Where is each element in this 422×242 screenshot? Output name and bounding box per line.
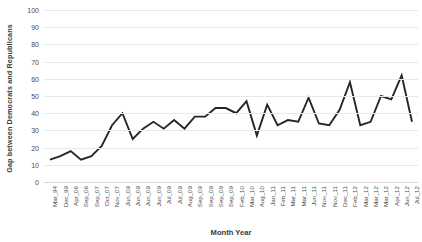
gridline-0 bbox=[44, 182, 418, 183]
x-tick-label: Sep_06 bbox=[83, 186, 89, 207]
y-tick-100: 100 bbox=[27, 7, 39, 14]
x-tick-label: Mar_12 bbox=[363, 186, 369, 207]
x-tick-label: Jul_09 bbox=[166, 186, 172, 204]
x-tick-label: Sep_09 bbox=[218, 186, 224, 207]
x-tick-label: Aug_09 bbox=[187, 186, 193, 207]
y-tick-60: 60 bbox=[31, 75, 39, 82]
gridline-30 bbox=[44, 130, 418, 131]
y-axis-title-text: Gap between Democrats and Republicans bbox=[5, 24, 14, 173]
x-tick-label: Jun_11 bbox=[311, 186, 317, 206]
y-tick-90: 90 bbox=[31, 24, 39, 31]
y-axis-tick-labels: 0102030405060708090100 bbox=[16, 0, 42, 196]
gridline-90 bbox=[44, 27, 418, 28]
x-tick-label: Jul_12 bbox=[414, 186, 420, 204]
y-tick-10: 10 bbox=[31, 161, 39, 168]
x-tick-label: Apr_12 bbox=[394, 186, 400, 206]
x-tick-label: Mar_11 bbox=[301, 186, 307, 207]
y-tick-70: 70 bbox=[31, 58, 39, 65]
x-tick-label: Sep_09 bbox=[228, 186, 234, 207]
x-tick-label: Mar_11 bbox=[290, 186, 296, 207]
x-tick-label: Feb_10 bbox=[239, 186, 245, 207]
x-tick-label: Nov_11 bbox=[321, 186, 327, 207]
x-tick-label: Mar_10 bbox=[249, 186, 255, 207]
y-tick-20: 20 bbox=[31, 144, 39, 151]
x-tick-label: Mar_12 bbox=[383, 186, 389, 207]
x-tick-label: Feb_11 bbox=[280, 186, 286, 207]
x-tick-label: Sep_09 bbox=[208, 186, 214, 207]
x-axis-title: Month Year bbox=[44, 228, 418, 237]
x-tick-label: Jun_09 bbox=[156, 186, 162, 206]
y-tick-80: 80 bbox=[31, 41, 39, 48]
x-tick-label: Jun_09 bbox=[135, 186, 141, 206]
gridline-50 bbox=[44, 96, 418, 97]
y-tick-0: 0 bbox=[35, 179, 39, 186]
x-tick-label: Feb_12 bbox=[352, 186, 358, 207]
x-tick-label: Oct_07 bbox=[104, 186, 110, 206]
x-tick-label: Aug_10 bbox=[259, 186, 265, 207]
x-tick-label: Jun_12 bbox=[404, 186, 410, 206]
gridline-70 bbox=[44, 62, 418, 63]
x-axis-tick-labels: Mar_94Dec_99Apr_06Sep_06Sep_07Oct_07Nov_… bbox=[44, 186, 418, 234]
gridline-40 bbox=[44, 113, 418, 114]
x-tick-label: Sep_09 bbox=[197, 186, 203, 207]
x-tick-label: Dec_99 bbox=[63, 186, 69, 207]
plot-area bbox=[44, 0, 418, 196]
gridline-10 bbox=[44, 165, 418, 166]
chart-container: Gap between Democrats and Republicans 01… bbox=[0, 0, 422, 242]
x-tick-label: Dec_11 bbox=[342, 186, 348, 207]
y-tick-50: 50 bbox=[31, 93, 39, 100]
x-tick-label: Nov_11 bbox=[332, 186, 338, 207]
x-tick-label: Jan_11 bbox=[270, 186, 276, 206]
x-tick-label: Nov_07 bbox=[114, 186, 120, 207]
gridline-60 bbox=[44, 79, 418, 80]
x-tick-label: Mar_94 bbox=[52, 186, 58, 207]
gridline-20 bbox=[44, 148, 418, 149]
gridline-100 bbox=[44, 10, 418, 11]
y-tick-30: 30 bbox=[31, 127, 39, 134]
line-series bbox=[44, 0, 418, 196]
x-tick-label: Mar_12 bbox=[373, 186, 379, 207]
gridline-80 bbox=[44, 44, 418, 45]
x-tick-label: Jun_09 bbox=[125, 186, 131, 206]
x-tick-label: Jul_09 bbox=[177, 186, 183, 204]
x-tick-label: Sep_07 bbox=[94, 186, 100, 207]
y-tick-40: 40 bbox=[31, 110, 39, 117]
x-tick-label: Jun_09 bbox=[145, 186, 151, 206]
x-tick-label: Apr_06 bbox=[73, 186, 79, 206]
